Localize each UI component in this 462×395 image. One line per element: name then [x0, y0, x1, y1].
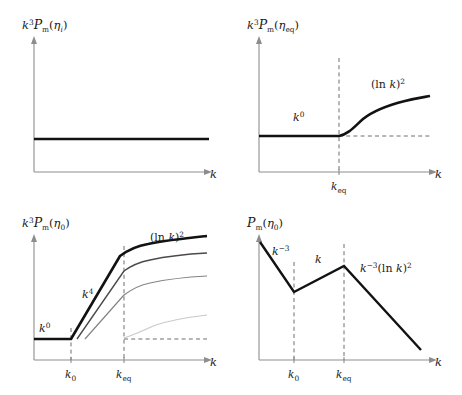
y-axis-arrow — [31, 36, 37, 44]
panel-br-canvas: Pm(η0) k k0 keq k−3 k k−3(ln k)2 — [231, 198, 462, 395]
curve-matter-power-spectrum — [260, 242, 421, 350]
y-axis-label: k3Pm(ηi) — [22, 17, 67, 34]
curve-today-primary — [34, 236, 207, 339]
y-axis-arrow — [256, 234, 262, 242]
y-axis-arrow — [256, 36, 262, 44]
panel-primordial-spectrum: k3Pm(ηi) k — [0, 0, 231, 197]
panel-equality-spectrum: k3Pm(ηeq) k keq k0 (ln k)2 — [231, 0, 462, 197]
annotation-lnk-squared: (ln k)2 — [371, 77, 405, 91]
panel-today-spectrum: Pm(η0) k k0 keq k−3 k k−3(ln k)2 — [231, 198, 462, 395]
curve-epoch-4-lightest — [124, 315, 207, 338]
y-axis-label: k3Pm(η0) — [22, 215, 70, 232]
y-axis-label: k3Pm(ηeq) — [247, 17, 299, 34]
y-axis-arrow — [31, 234, 37, 242]
x-axis-label: k — [435, 167, 442, 181]
tick-label-keq: keq — [331, 180, 347, 195]
panel-tl-canvas: k3Pm(ηi) k — [0, 0, 231, 197]
x-axis-label: k — [435, 355, 442, 369]
curve-equality-spectrum — [259, 96, 430, 136]
panel-tr-canvas: k3Pm(ηeq) k keq k0 (ln k)2 — [231, 0, 462, 197]
tick-label-k0: k0 — [288, 368, 299, 383]
annotation-k0-power: k0 — [293, 110, 305, 124]
annotation-lnk-squared: (ln k)2 — [150, 230, 184, 244]
tick-label-keq: keq — [336, 368, 352, 383]
tick-label-k0: k0 — [65, 368, 76, 383]
x-axis-label: k — [210, 167, 217, 181]
x-axis-label: k — [210, 355, 217, 369]
annotation-k-minus3-lnk-squared: k−3(ln k)2 — [360, 261, 412, 275]
annotation-k0-power: k0 — [39, 321, 51, 335]
panel-bl-canvas: k3Pm(η0) k k0 keq k0 k4 (ln k)2 — [0, 198, 231, 395]
annotation-k4-power: k4 — [82, 287, 94, 301]
tick-label-keq: keq — [116, 368, 132, 383]
annotation-k-minus3: k−3 — [272, 244, 290, 258]
panel-today-k3-spectrum: k3Pm(η0) k k0 keq k0 k4 (ln k)2 — [0, 198, 231, 395]
annotation-k-linear: k — [315, 253, 322, 266]
figure-root: k3Pm(ηi) k k3Pm(ηeq) k — [0, 0, 462, 395]
y-axis-label: Pm(η0) — [246, 215, 283, 232]
